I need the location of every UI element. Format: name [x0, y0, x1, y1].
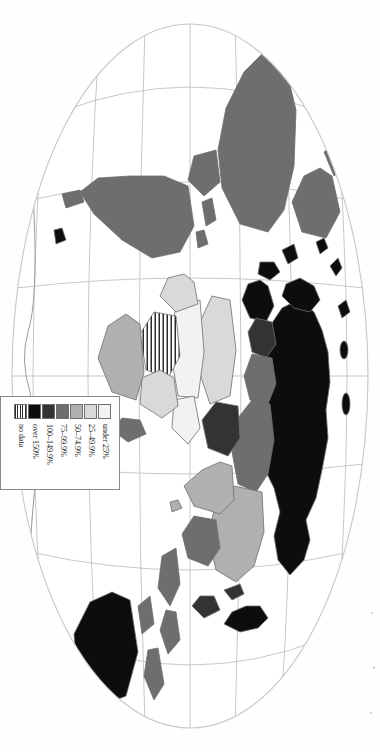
map-rotation-layer: under 25% 25–49.9% 50–74.9% 75–99.9% 100…	[0, 0, 380, 752]
legend-swatch-no-data	[15, 404, 28, 419]
legend-item: over 150%	[28, 404, 42, 483]
legend-item: under 25%	[98, 404, 112, 483]
legend-item: no data	[14, 404, 28, 483]
legend-item: 50–74.9%	[70, 404, 84, 483]
legend-swatch-25-49	[85, 404, 98, 419]
legend-label-no-data: no data	[17, 424, 25, 447]
legend-label-under-25: under 25%	[101, 424, 109, 459]
scan-speckle	[373, 666, 375, 669]
legend-item: 100–149.9%	[42, 404, 56, 483]
figure-page: under 25% 25–49.9% 50–74.9% 75–99.9% 100…	[0, 0, 380, 752]
legend-swatch-over-150	[29, 404, 42, 419]
scan-speckle	[371, 612, 373, 614]
scan-speckle	[370, 712, 372, 714]
legend-label-over-150: over 150%	[31, 424, 39, 459]
legend-swatch-50-74	[71, 404, 84, 419]
map-legend: under 25% 25–49.9% 50–74.9% 75–99.9% 100…	[0, 396, 120, 490]
legend-item: 25–49.9%	[84, 404, 98, 483]
legend-label-25-49: 25–49.9%	[87, 424, 95, 457]
legend-swatch-100-149	[43, 404, 56, 419]
legend-item: 75–99.9%	[56, 404, 70, 483]
legend-swatch-under-25	[99, 404, 112, 419]
legend-swatch-75-99	[57, 404, 70, 419]
legend-label-100-149: 100–149.9%	[45, 424, 53, 465]
legend-label-75-99: 75–99.9%	[59, 424, 67, 457]
world-map	[0, 0, 380, 752]
legend-label-50-74: 50–74.9%	[73, 424, 81, 457]
